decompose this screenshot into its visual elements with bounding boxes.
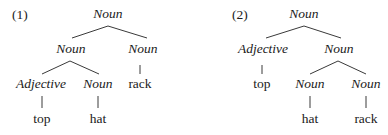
tree-1-edge-root-right [108, 26, 147, 38]
tree-1-adjective-node: Adjective [15, 76, 66, 91]
tree-2-word-top: top [253, 76, 271, 91]
tree-1-edge-left-adjective [42, 61, 70, 74]
tree-2-edge-right-left [310, 61, 338, 74]
tree-1-edge-root-left [72, 26, 108, 38]
tree-2-word-rack: rack [354, 111, 377, 126]
tree-2-word-hat: hat [302, 111, 319, 126]
tree-1-word-rack: rack [128, 76, 151, 91]
tree-2-right-node: Noun [323, 41, 354, 56]
tree-1-label: (1) [12, 7, 28, 22]
tree-1-word-hat: hat [90, 111, 107, 126]
tree-1-edge-left-noun [70, 61, 99, 74]
tree-2-edge-right-right [338, 61, 366, 74]
tree-2-noun-rack-node: Noun [350, 76, 381, 91]
tree-2-edge-root-left [266, 26, 304, 38]
tree-1-noun-node: Noun [82, 76, 113, 91]
tree-1-root-node: Noun [92, 6, 123, 21]
tree-2-noun-hat-node: Noun [294, 76, 325, 91]
tree-2-edge-root-right [304, 26, 341, 38]
tree-1-left-node: Noun [55, 41, 86, 56]
tree-2-label: (2) [232, 7, 248, 22]
tree-1: (1) Noun Noun Noun Adjective Noun rack t… [12, 6, 158, 126]
tree-1-word-top: top [33, 111, 51, 126]
tree-2: (2) Noun Adjective Noun top Noun Noun ha… [232, 6, 381, 126]
tree-2-root-node: Noun [288, 6, 319, 21]
parse-tree-diagram: (1) Noun Noun Noun Adjective Noun rack t… [0, 0, 388, 135]
tree-2-adjective-node: Adjective [237, 41, 288, 56]
tree-1-right-node: Noun [127, 41, 158, 56]
